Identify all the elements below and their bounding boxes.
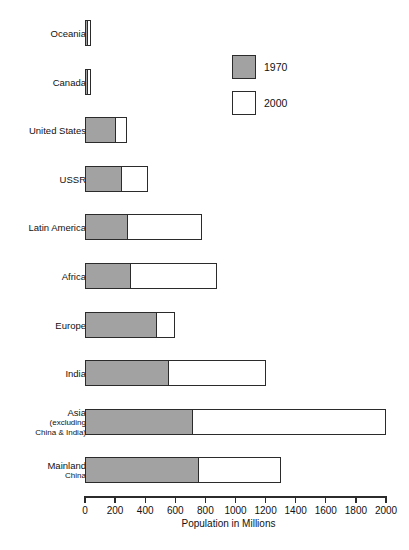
bar-row: Asia(excluding China & India): [0, 405, 409, 439]
bar-row: Europe: [0, 308, 409, 342]
x-axis-tick-label: 1600: [315, 505, 337, 516]
x-axis-tick-label: 800: [197, 505, 214, 516]
bar-row: Canada: [0, 65, 409, 99]
bar-row-label: Asia(excluding China & India): [0, 406, 86, 437]
bar-row-label: Latin America: [0, 222, 86, 233]
bar-segment-2000: [121, 166, 148, 192]
x-axis-tick: [325, 496, 326, 503]
bar-segment-1970: [85, 409, 193, 435]
chart-legend: 1970 2000: [232, 55, 287, 127]
bar-segment-2000: [198, 457, 281, 483]
x-axis-tick: [235, 496, 236, 503]
x-axis-tick: [265, 496, 266, 503]
x-axis-tick-label: 1200: [254, 505, 276, 516]
x-axis-tick: [205, 496, 206, 503]
x-axis-title: Population in Millions: [0, 518, 409, 529]
x-axis-tick-label: 2000: [375, 505, 397, 516]
bar-row-label: USSR: [0, 173, 86, 184]
x-axis-tick-label: 200: [107, 505, 124, 516]
legend-swatch-2000-icon: [232, 91, 256, 115]
bar-row-label: Oceania: [0, 28, 86, 39]
legend-item-2000: 2000: [232, 91, 287, 115]
x-axis-tick: [295, 496, 296, 503]
x-axis-tick-label: 1400: [285, 505, 307, 516]
bar-group: [85, 457, 281, 483]
bar-group: [85, 20, 91, 46]
bar-segment-2000: [87, 20, 91, 46]
legend-swatch-1970-icon: [232, 55, 256, 79]
bar-group: [85, 166, 148, 192]
bar-segment-2000: [168, 360, 266, 386]
bar-row-label: India: [0, 368, 86, 379]
bar-segment-2000: [192, 409, 386, 435]
bar-group: [85, 360, 266, 386]
x-axis-tick-label: 400: [137, 505, 154, 516]
population-bar-chart: OceaniaCanadaUnited StatesUSSRLatin Amer…: [0, 0, 409, 550]
bar-group: [85, 409, 386, 435]
bar-segment-1970: [85, 312, 157, 338]
x-axis-tick: [114, 496, 115, 503]
legend-label-2000: 2000: [264, 97, 287, 109]
x-axis: 0200400600800100012001400160018002000: [85, 496, 386, 498]
bar-segment-2000: [115, 117, 127, 143]
bar-group: [85, 312, 175, 338]
bar-group: [85, 69, 91, 95]
bar-row-label: Europe: [0, 319, 86, 330]
bar-group: [85, 214, 202, 240]
bar-segment-1970: [85, 263, 132, 289]
bar-row: Oceania: [0, 16, 409, 50]
legend-label-1970: 1970: [264, 61, 287, 73]
legend-item-1970: 1970: [232, 55, 287, 79]
x-axis-tick: [355, 496, 356, 503]
bar-group: [85, 263, 217, 289]
bar-row-sublabel: China: [0, 471, 86, 481]
bar-segment-1970: [85, 117, 117, 143]
bar-segment-2000: [130, 263, 217, 289]
bar-row-label: United States: [0, 125, 86, 136]
bar-row: MainlandChina: [0, 453, 409, 487]
bar-segment-1970: [85, 457, 199, 483]
x-axis-tick-label: 0: [82, 505, 88, 516]
bar-row: Latin America: [0, 210, 409, 244]
bar-row-sublabel: (excluding China & India): [0, 417, 86, 437]
bar-row: Africa: [0, 259, 409, 293]
x-axis-tick: [175, 496, 176, 503]
x-axis-tick: [84, 496, 85, 503]
bar-segment-1970: [85, 214, 129, 240]
x-axis-tick: [385, 496, 386, 503]
bar-row-label: MainlandChina: [0, 460, 86, 481]
bar-row-label: Africa: [0, 271, 86, 282]
x-axis-tick-label: 1000: [224, 505, 246, 516]
bar-row: United States: [0, 113, 409, 147]
bar-group: [85, 117, 127, 143]
bar-segment-2000: [87, 69, 91, 95]
bar-row-label: Canada: [0, 76, 86, 87]
x-axis-tick-label: 600: [167, 505, 184, 516]
bar-segment-2000: [127, 214, 202, 240]
bar-row: USSR: [0, 162, 409, 196]
x-axis-tick-label: 1800: [345, 505, 367, 516]
bar-row: India: [0, 356, 409, 390]
bar-segment-2000: [156, 312, 175, 338]
bar-segment-1970: [85, 360, 169, 386]
x-axis-tick: [145, 496, 146, 503]
bar-segment-1970: [85, 166, 123, 192]
